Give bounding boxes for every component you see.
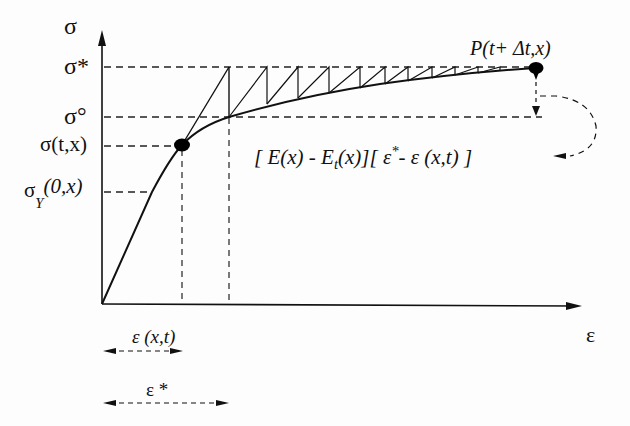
stiffness-expression: [ E(x) - Et(x)][ ε*- ε (x,t) ] bbox=[254, 144, 472, 172]
x-axis-arrow-icon bbox=[566, 302, 582, 310]
label-sigma-star: σ* bbox=[64, 54, 89, 78]
sigma-y-rest: (0,x) bbox=[44, 174, 83, 198]
diagram-canvas bbox=[0, 0, 630, 426]
label-eps-star: ε * bbox=[146, 380, 168, 399]
x-axis-label: ε bbox=[586, 324, 595, 346]
stress-strain-curve bbox=[102, 68, 535, 304]
point-P-label: P(t+ Δt,x) bbox=[470, 38, 551, 58]
x-axis bbox=[102, 304, 578, 306]
eps-star-left-arrow-icon bbox=[103, 400, 116, 406]
drop-arrow-head-icon bbox=[532, 106, 540, 116]
loop-arrow-head-icon bbox=[553, 153, 566, 159]
horizontal-guides bbox=[104, 67, 542, 192]
label-eps-xt: ε (x,t) bbox=[132, 327, 175, 346]
label-sigma-y0x: σY(0,x) bbox=[24, 180, 83, 205]
current-state-point bbox=[174, 139, 190, 152]
y-axis-label: σ bbox=[64, 14, 77, 38]
eps-xt-right-arrow-icon bbox=[170, 348, 183, 354]
point-P-stem-icon bbox=[533, 72, 539, 80]
sigma-y-sub: Y bbox=[35, 195, 43, 211]
label-sigma-o: σ° bbox=[64, 104, 87, 128]
label-sigma-tx: σ(t,x) bbox=[40, 134, 87, 155]
eps-xt-left-arrow-icon bbox=[103, 348, 116, 354]
loop-arrow bbox=[540, 96, 596, 156]
stress-strain-diagram: σ ε σ* σ° σ(t,x) σY(0,x) P(t+ Δt,x) [ E(… bbox=[0, 0, 630, 426]
y-axis-arrow-icon bbox=[98, 30, 106, 46]
sigma-y-main: σ bbox=[24, 178, 35, 202]
elastic-trial-line bbox=[182, 67, 229, 145]
expr-part2: (x)][ ε bbox=[338, 145, 391, 169]
expr-sup-star: * bbox=[391, 143, 398, 159]
expr-part1: [ E(x) - E bbox=[254, 145, 334, 169]
expr-part3: - ε (x,t) ] bbox=[399, 145, 473, 169]
eps-star-right-arrow-icon bbox=[216, 400, 229, 406]
